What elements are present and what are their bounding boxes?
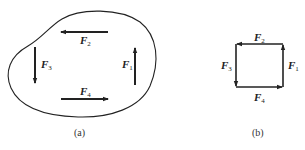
figure-b-caption: (b) [252,127,264,139]
figure-a-caption: (a) [74,127,85,139]
figure-a: F2 F3 F1 F4 (a) [8,11,156,139]
force-f2-label: F2 [79,34,91,48]
force-diagram: F2 F3 F1 F4 (a) F2 F3 F1 F4 (b) [0,0,305,150]
force-f3-label: F3 [220,59,232,73]
force-f1-label: F1 [287,59,299,73]
force-f4-label: F4 [253,91,265,105]
force-f2-label: F2 [253,31,265,45]
force-f3-label: F3 [40,58,52,72]
force-f1-label: F1 [121,58,133,72]
rigid-body-outline [8,11,156,117]
force-f4-label: F4 [79,85,91,99]
figure-b: F2 F3 F1 F4 (b) [220,31,299,139]
